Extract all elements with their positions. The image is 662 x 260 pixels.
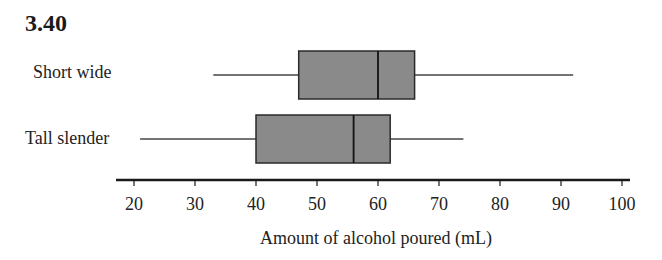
x-tick-label: 70 xyxy=(430,194,448,214)
x-tick-label: 100 xyxy=(609,194,636,214)
x-tick-label: 20 xyxy=(125,194,143,214)
x-tick-label: 30 xyxy=(186,194,204,214)
box-tall-slender xyxy=(256,115,390,163)
box-short-wide xyxy=(299,51,415,99)
x-tick-label: 40 xyxy=(247,194,265,214)
x-axis-label-container: Amount of alcohol poured (mL) xyxy=(0,228,662,249)
x-tick-label: 50 xyxy=(308,194,326,214)
x-tick-label: 90 xyxy=(552,194,570,214)
boxplot-chart: 2030405060708090100 xyxy=(0,0,662,260)
x-tick-label: 60 xyxy=(369,194,387,214)
x-axis-label: Amount of alcohol poured (mL) xyxy=(260,228,492,248)
x-tick-label: 80 xyxy=(491,194,509,214)
